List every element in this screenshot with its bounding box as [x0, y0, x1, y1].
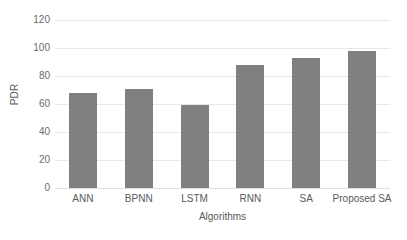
y-axis-tick-label: 60	[24, 99, 50, 109]
y-axis-title-text: PDR	[10, 83, 21, 105]
bar[interactable]	[181, 105, 209, 188]
bar[interactable]	[292, 58, 320, 188]
gridline	[55, 188, 390, 189]
x-axis-tick-label: LSTM	[181, 192, 208, 205]
y-axis-tick-label: 0	[24, 183, 50, 193]
x-axis-tick-labels: ANNBPNNLSTMRNNSAProposed SA	[55, 192, 390, 208]
bar-slot	[111, 20, 167, 188]
x-axis-tick-label: BPNN	[125, 192, 153, 205]
bar-slot	[167, 20, 223, 188]
bar-slot	[334, 20, 390, 188]
x-axis-title: Algorithms	[55, 211, 390, 222]
y-axis-tick-labels: 020406080100120	[24, 0, 50, 240]
bar-slot	[223, 20, 279, 188]
bar[interactable]	[125, 89, 153, 188]
bar-chart: PDR 020406080100120 ANNBPNNLSTMRNNSAProp…	[0, 0, 407, 240]
x-axis-tick-label: SA	[300, 192, 313, 205]
bars-layer	[55, 20, 390, 188]
bar[interactable]	[69, 93, 97, 188]
bar-slot	[55, 20, 111, 188]
y-axis-tick-label: 80	[24, 71, 50, 81]
bar[interactable]	[236, 65, 264, 188]
plot-area	[55, 20, 390, 188]
y-axis-title: PDR	[6, 0, 24, 188]
x-axis-tick-label: Proposed SA	[333, 192, 392, 205]
bar-slot	[278, 20, 334, 188]
x-axis-tick-label: ANN	[72, 192, 93, 205]
y-axis-tick-label: 100	[24, 43, 50, 53]
y-axis-tick-label: 40	[24, 127, 50, 137]
x-axis-tick-label: RNN	[240, 192, 262, 205]
y-axis-tick-label: 120	[24, 15, 50, 25]
y-axis-tick-label: 20	[24, 155, 50, 165]
bar[interactable]	[348, 51, 376, 188]
